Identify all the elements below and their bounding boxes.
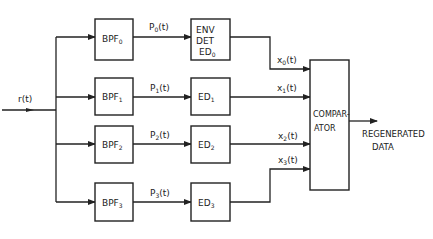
svg-text:DET: DET	[196, 36, 215, 46]
bpf3-block: BPF3	[95, 183, 133, 221]
input-label: r(t)	[18, 94, 32, 104]
fsk-receiver-diagram: r(t) BPF0 BPF1 BPF2 BPF3 P0(t) P1(t) P2(…	[0, 0, 433, 239]
output-label-x2: x2(t)	[278, 131, 298, 142]
ed0-block: ENV DET ED0	[191, 19, 230, 60]
ed0-to-comparator	[230, 37, 310, 69]
comparator-block: COMPAR- ATOR	[310, 60, 350, 190]
signal-label-p3: P3(t)	[150, 188, 170, 199]
svg-text:ENV: ENV	[196, 25, 215, 35]
output-label-line2: DATA	[372, 142, 394, 152]
svg-text:ATOR: ATOR	[314, 124, 336, 133]
input-arrow-icon	[26, 108, 34, 112]
ed1-block: ED1	[191, 78, 230, 115]
ed2-block: ED2	[191, 126, 230, 163]
output-label-line1: REGENERATED	[362, 129, 425, 139]
ed3-block: ED3	[191, 183, 230, 221]
bpf1-block: BPF1	[95, 78, 133, 115]
signal-label-p1: P1(t)	[150, 83, 170, 94]
bpf0-block: BPF0	[95, 19, 133, 60]
output-label-x0: x0(t)	[277, 55, 297, 66]
output-label-x1: x1(t)	[277, 83, 297, 94]
signal-label-p0: P0(t)	[149, 22, 169, 33]
output-label-x3: x3(t)	[278, 155, 298, 166]
bpf2-block: BPF2	[95, 126, 133, 163]
ed3-to-comparator	[230, 169, 310, 202]
svg-text:COMPAR-: COMPAR-	[313, 110, 350, 119]
signal-label-p2: P2(t)	[150, 130, 170, 141]
